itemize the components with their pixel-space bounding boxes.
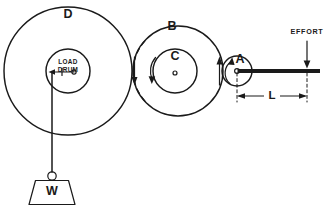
tangent-arrow-down-head: [132, 77, 138, 85]
effort-arrow-head: [304, 61, 311, 69]
wheel-d-label: D: [63, 7, 72, 21]
dimension-arrowhead-right: [299, 93, 307, 99]
effort-label: EFFORT: [291, 27, 324, 36]
load-drum-label-line2: DRUM: [58, 66, 79, 73]
wheel-c-label: C: [170, 49, 179, 63]
diagram-canvas: LOAD DRUM D W B C A: [0, 0, 334, 211]
load-drum-label-line1: LOAD: [58, 58, 78, 65]
wheel-b-label: B: [167, 19, 176, 33]
wheel-a-label: A: [235, 52, 244, 66]
weight-hook-ring: [48, 172, 56, 180]
dimension-label-l: L: [268, 89, 275, 101]
wheel-b-outer-circle: [133, 26, 223, 116]
dimension-arrowhead-left: [237, 93, 245, 99]
mechanical-diagram: LOAD DRUM D W B C A: [0, 0, 334, 211]
weight-label: W: [46, 184, 58, 198]
wheel-c-center-mark: [173, 71, 177, 75]
